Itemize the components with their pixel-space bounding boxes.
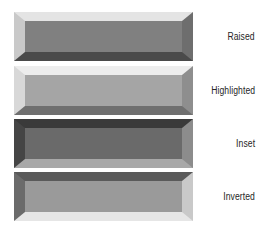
swatch-row: Inverted <box>0 172 261 221</box>
bevel-swatch-inverted <box>14 172 193 221</box>
bevel-swatch-raised <box>14 12 193 61</box>
swatch-label-raised: Raised <box>228 32 255 42</box>
bevel-face <box>25 75 182 106</box>
swatch-row: Inset <box>0 119 261 168</box>
bevel-swatch-inset <box>14 119 193 168</box>
swatch-label-inverted: Inverted <box>223 192 255 202</box>
bevel-effects-figure: Raised Highlighted Inset Inverted <box>0 0 261 229</box>
bevel-face <box>25 128 182 159</box>
swatch-label-highlighted: Highlighted <box>211 86 255 96</box>
bevel-swatch-highlighted <box>14 66 193 115</box>
bevel-face <box>25 181 182 212</box>
swatch-row: Raised <box>0 12 261 61</box>
swatch-label-inset: Inset <box>236 139 255 149</box>
bevel-face <box>25 21 182 52</box>
swatch-row: Highlighted <box>0 66 261 115</box>
